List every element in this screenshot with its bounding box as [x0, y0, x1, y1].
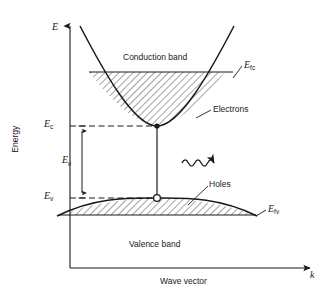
figure-canvas: E Energy Wave vector k Conduction band V… — [0, 0, 326, 303]
y-axis-label: Energy — [11, 109, 20, 169]
electrons-label: Electrons — [213, 105, 248, 114]
holes-label: Holes — [209, 180, 231, 189]
e-v-label: Ev — [44, 191, 53, 201]
axis-group — [70, 26, 310, 268]
valence-band-label: Valence band — [129, 240, 180, 249]
conduction-band-label: Conduction band — [123, 53, 187, 62]
x-axis-symbol: k — [310, 270, 314, 280]
e-g-subscript: g — [68, 159, 71, 166]
e-fv-label: Efv — [268, 204, 279, 214]
band-diagram-svg — [0, 0, 326, 303]
electron-marker-icon — [154, 123, 159, 128]
e-g-label: Eg — [62, 155, 71, 165]
electrons-leader-line — [196, 110, 211, 118]
e-fc-leader-line — [233, 66, 242, 78]
bandgap-arrow — [79, 126, 86, 198]
e-v-subscript: v — [50, 195, 53, 202]
e-fv-subscript: fv — [274, 208, 279, 215]
e-c-subscript: c — [50, 123, 53, 130]
x-axis-label: Wave vector — [160, 277, 207, 286]
e-fc-subscript: fc — [250, 64, 255, 71]
e-fc-label: Efc — [244, 60, 255, 70]
e-fv-leader-line — [256, 210, 266, 216]
hole-marker-icon — [154, 195, 161, 202]
e-c-label: Ec — [44, 119, 53, 129]
y-axis-symbol: E — [52, 22, 58, 32]
photon-wavy-arrow-icon — [182, 160, 214, 166]
